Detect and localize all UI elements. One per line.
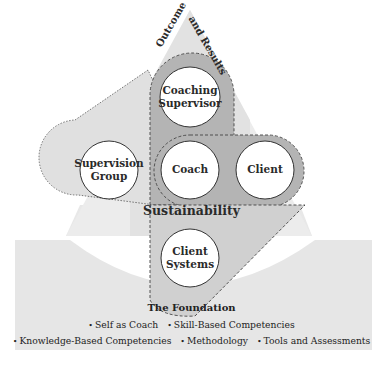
label-coach: Coach (155, 163, 225, 176)
sustainability-label: Sustainability (0, 203, 383, 218)
foundation-item-text: Skill-Based Competencies (174, 319, 295, 330)
foundation-line-1: •Self as Coach •Skill-Based Competencies (0, 319, 383, 330)
foundation-item: •Methodology (180, 335, 248, 346)
foundation-item: •Knowledge-Based Competencies (13, 335, 172, 346)
label-line: Systems (155, 258, 225, 271)
bullet-icon: • (88, 321, 93, 330)
label-line: Supervisor (155, 97, 225, 110)
foundation-item: •Skill-Based Competencies (167, 319, 295, 330)
foundation-item-text: Self as Coach (95, 319, 158, 330)
label-line: Group (72, 170, 146, 183)
foundation-item-text: Tools and Assessments (264, 335, 371, 346)
foundation-item: •Tools and Assessments (257, 335, 370, 346)
foundation-item: •Self as Coach (88, 319, 158, 330)
label-line: Client (155, 245, 225, 258)
bullet-icon: • (13, 337, 18, 346)
foundation-title: The Foundation (0, 302, 383, 313)
bullet-icon: • (180, 337, 185, 346)
label-line: Coach (155, 163, 225, 176)
label-line: Client (230, 163, 300, 176)
bullet-icon: • (167, 321, 172, 330)
foundation-item-text: Methodology (187, 335, 248, 346)
label-supervision-group: Supervision Group (72, 157, 146, 183)
label-client: Client (230, 163, 300, 176)
foundation-item-text: Knowledge-Based Competencies (19, 335, 171, 346)
foundation-line-2: •Knowledge-Based Competencies •Methodolo… (0, 335, 383, 346)
label-line: Coaching (155, 84, 225, 97)
label-client-systems: Client Systems (155, 245, 225, 271)
label-coaching-supervisor: Coaching Supervisor (155, 84, 225, 110)
label-line: Supervision (72, 157, 146, 170)
bullet-icon: • (257, 337, 262, 346)
